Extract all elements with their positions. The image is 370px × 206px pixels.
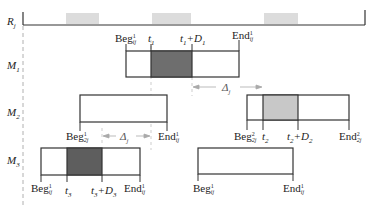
delta-label-2: Δj — [120, 131, 128, 147]
m2-t-label: t2 — [262, 131, 269, 147]
row-label-resource: Rj — [7, 16, 16, 32]
delta-label-1: Δj — [222, 82, 230, 98]
m2-end2-label: End22j — [339, 131, 361, 143]
m3-end2-label: End1ij — [283, 183, 304, 195]
m2-beg2-label: Beg22j — [234, 131, 256, 143]
m3-t-plus-d-label: t3+D3 — [91, 185, 116, 201]
m3-operation-2 — [198, 148, 293, 181]
gantt-diagram — [0, 0, 370, 206]
m3-end1-label: End1ij — [124, 183, 145, 195]
m2-end1-label: End1ij — [158, 131, 179, 143]
resource-busy-block-3 — [264, 13, 298, 24]
m2-operation-1 — [80, 95, 167, 131]
m2-beg1-label: Beg12j — [66, 131, 88, 143]
m2-processing-block — [263, 95, 298, 120]
row-label-m3: M3 — [7, 155, 20, 171]
m1-end-label: End1ij — [232, 30, 253, 42]
m3-beg1-label: Beg1ij — [31, 183, 52, 195]
m3-operation-1 — [41, 148, 140, 182]
resource-busy-block-1 — [66, 13, 99, 24]
m1-t-plus-d-label: t1+D1 — [180, 33, 205, 49]
m1-beg-label: Beg1ij — [115, 33, 136, 45]
m3-beg2-label: Beg1ij — [193, 183, 214, 195]
resource-busy-block-2 — [152, 13, 191, 24]
m1-processing-block — [151, 51, 192, 77]
m2-operation-2 — [247, 95, 349, 130]
m2-t-plus-d-label: t2+D2 — [287, 131, 312, 147]
m3-t-label: t3 — [65, 185, 72, 201]
m3-processing-block — [67, 148, 102, 175]
row-label-m1: M1 — [7, 60, 20, 76]
m1-t-label: t1 — [148, 33, 155, 49]
resource-timeline — [23, 10, 365, 25]
row-label-m2: M2 — [7, 107, 20, 123]
